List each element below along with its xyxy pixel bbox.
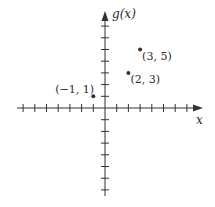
coordinate-plane: x g(x) (−1, 1)(2, 3)(3, 5) [0,0,215,207]
y-axis-arrow-icon [102,11,109,21]
data-point: (−1, 1) [55,83,95,98]
data-point: (3, 5) [138,48,172,63]
point-label: (−1, 1) [55,83,94,96]
x-axis-label: x [196,113,203,127]
y-axis-label: g(x) [112,7,136,21]
axes [17,11,203,196]
point-label: (3, 5) [142,50,172,63]
x-axis-arrow-icon [193,105,203,112]
data-point: (2, 3) [126,71,160,86]
data-points: (−1, 1)(2, 3)(3, 5) [55,48,171,99]
point-label: (2, 3) [130,73,160,86]
